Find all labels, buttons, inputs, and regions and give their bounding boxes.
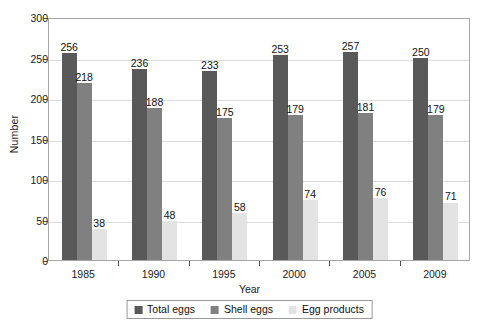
bar-value-label: 250 (412, 46, 430, 58)
bar-value-label: 188 (146, 96, 164, 108)
bar (77, 83, 92, 260)
y-tick-label: 0 (6, 255, 48, 267)
bar-group: 23618848 (119, 19, 189, 260)
bar (92, 229, 107, 260)
legend-label: Total eggs (147, 304, 195, 315)
bar-value-label: 38 (93, 217, 105, 229)
bar-value-label: 74 (304, 188, 316, 200)
bar-value-label: 175 (216, 106, 234, 118)
bar (162, 221, 177, 260)
y-tick-mark (43, 261, 48, 262)
bar (62, 53, 77, 260)
x-tick-label: 1990 (142, 268, 165, 280)
bar-value-label: 58 (234, 201, 246, 213)
chart-legend: Total eggsShell eggsEgg products (126, 300, 373, 319)
x-tick-mark (118, 261, 119, 266)
bar-value-label: 179 (286, 103, 304, 115)
bar (232, 213, 247, 260)
bar-value-label: 253 (271, 43, 289, 55)
x-tick-label: 1985 (71, 268, 94, 280)
legend-swatch-icon (134, 306, 142, 314)
y-tick-label: 150 (6, 134, 48, 146)
bar-value-label: 257 (342, 40, 360, 52)
legend-item: Total eggs (134, 304, 195, 315)
x-tick-mark (259, 261, 260, 266)
y-tick-label: 250 (6, 53, 48, 65)
x-tick-label: 1995 (212, 268, 235, 280)
legend-item: Shell eggs (211, 304, 273, 315)
plot-area: 2562183823618848233175582531797425718176… (48, 18, 470, 261)
bar-group: 23317558 (190, 19, 260, 260)
bar-value-label: 181 (357, 101, 375, 113)
bar-value-label: 218 (75, 71, 93, 83)
x-tick-label: 2005 (353, 268, 376, 280)
legend-swatch-icon (211, 306, 219, 314)
bar (373, 198, 388, 260)
bar-group: 25718176 (330, 19, 400, 260)
bar-group: 25017971 (401, 19, 470, 260)
bar (358, 113, 373, 260)
bar-value-label: 256 (60, 41, 78, 53)
bar (428, 115, 443, 260)
bar (413, 58, 428, 261)
y-tick-label: 200 (6, 93, 48, 105)
bar-value-label: 48 (164, 209, 176, 221)
legend-label: Egg products (302, 304, 364, 315)
bar (443, 203, 458, 261)
bar (303, 200, 318, 260)
bar-value-label: 233 (201, 59, 219, 71)
bar (202, 71, 217, 260)
x-tick-mark (189, 261, 190, 266)
bar (147, 108, 162, 260)
x-tick-label: 2009 (423, 268, 446, 280)
bar (273, 55, 288, 260)
y-tick-label: 100 (6, 174, 48, 186)
bar-group: 25621838 (49, 19, 119, 260)
bar (217, 118, 232, 260)
bar-value-label: 71 (445, 190, 457, 202)
y-tick-label: 300 (6, 12, 48, 24)
legend-label: Shell eggs (224, 304, 273, 315)
x-axis-title: Year (0, 283, 499, 295)
bar (288, 115, 303, 260)
bar-value-label: 76 (375, 186, 387, 198)
x-tick-mark (329, 261, 330, 266)
x-tick-mark (400, 261, 401, 266)
bar-value-label: 179 (427, 103, 445, 115)
legend-swatch-icon (289, 306, 297, 314)
bar-chart: Number 050100150200250300 25621838236188… (0, 0, 499, 335)
y-tick-label: 50 (6, 215, 48, 227)
legend-item: Egg products (289, 304, 364, 315)
x-tick-label: 2000 (282, 268, 305, 280)
bar (343, 52, 358, 260)
bar-value-label: 236 (131, 57, 149, 69)
bar-group: 25317974 (260, 19, 330, 260)
